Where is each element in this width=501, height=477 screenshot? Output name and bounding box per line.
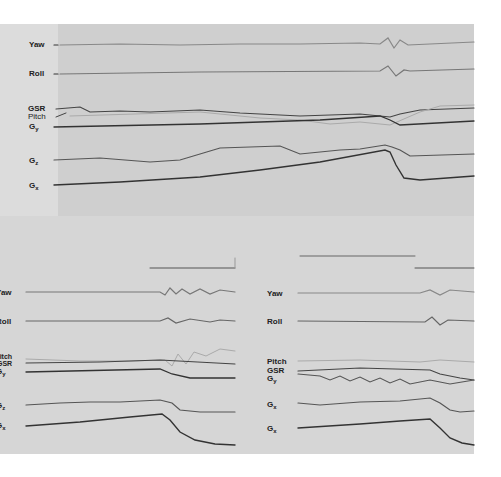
top-gy-trace bbox=[54, 116, 474, 127]
br-label-yaw: Yaw bbox=[267, 289, 283, 298]
bl-gy-trace bbox=[26, 369, 235, 378]
bl-yaw-trace bbox=[26, 288, 235, 295]
top-yaw-trace bbox=[54, 38, 474, 48]
top-label-pitch: Pitch bbox=[28, 112, 46, 121]
top-gx-trace bbox=[54, 150, 474, 185]
br-gz-trace bbox=[298, 398, 474, 412]
top-label-roll: Roll bbox=[29, 69, 44, 78]
top-label-gx: Gx bbox=[29, 181, 39, 193]
br-label-gy: Gy bbox=[267, 374, 277, 386]
bl-label-yaw: Yaw bbox=[0, 288, 12, 297]
bl-label-gz: Gz bbox=[0, 401, 5, 413]
br-label-pitch: Pitch bbox=[267, 357, 287, 366]
bl-pitch-trace bbox=[26, 349, 235, 366]
top-label-gz: Gz bbox=[29, 156, 38, 168]
br-label-gx: Gx bbox=[267, 424, 277, 436]
br-label-roll: Roll bbox=[267, 317, 282, 326]
bl-label-gx: Gx bbox=[0, 421, 6, 433]
top-gz-trace bbox=[54, 145, 474, 162]
bl-label-roll: Roll bbox=[0, 317, 11, 326]
bl-gz-trace bbox=[26, 400, 235, 412]
top-pitch-trace bbox=[56, 113, 66, 117]
bl-gx-trace bbox=[26, 414, 235, 445]
top-label-gy: Gy bbox=[29, 122, 39, 134]
bl-roll-trace bbox=[26, 318, 235, 323]
top-roll-trace bbox=[54, 66, 474, 76]
top-label-yaw: Yaw bbox=[29, 40, 45, 49]
br-gx-trace bbox=[298, 419, 474, 445]
br-yaw-trace bbox=[298, 290, 474, 295]
bl-label-gy: Gy bbox=[0, 367, 6, 379]
br-roll-trace bbox=[298, 317, 474, 325]
br-pitch-trace bbox=[298, 360, 474, 362]
trace-canvas bbox=[0, 0, 501, 477]
br-label-gz: Gx bbox=[267, 400, 277, 412]
